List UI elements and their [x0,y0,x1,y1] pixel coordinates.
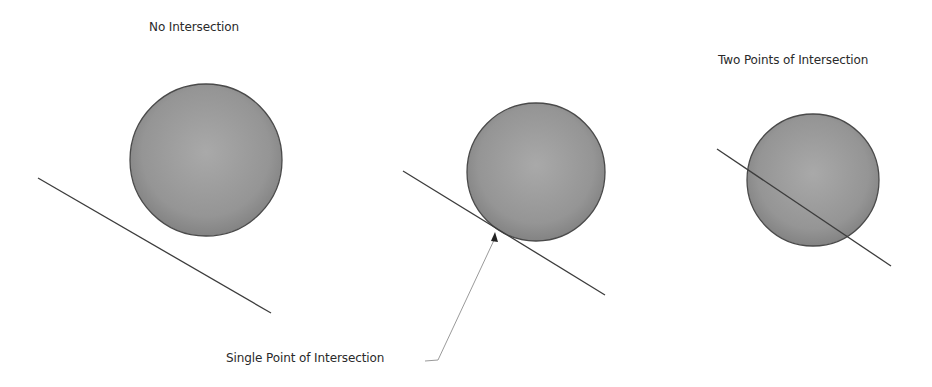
pointer-leader-line [425,238,495,361]
panel-two-points [717,114,891,266]
circle [130,84,282,236]
circle [747,114,879,246]
label-single-point: Single Point of Intersection [226,351,384,365]
label-two-points: Two Points of Intersection [718,53,868,67]
panel-no-intersection [38,84,282,313]
panel-single-point [403,103,605,361]
circle [467,103,605,241]
arrowhead-icon [491,232,498,242]
label-no-intersection: No Intersection [149,20,239,34]
